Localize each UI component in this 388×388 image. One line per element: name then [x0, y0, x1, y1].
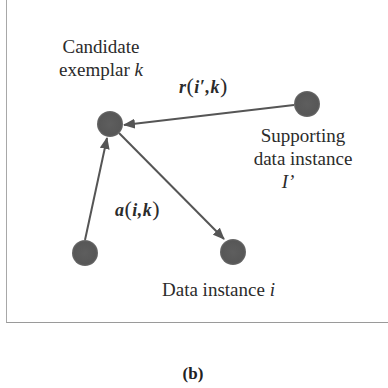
candidate-label-line2: exemplar k: [40, 58, 162, 81]
data-instance-node: [220, 239, 246, 265]
candidate-exemplar-label: Candidate exemplar k: [40, 35, 162, 81]
data-instance-label: Data instance i: [162, 278, 275, 301]
responsibility-label: r(i′,k): [179, 73, 228, 99]
responsibility-edge: [124, 105, 294, 125]
figure-caption: (b): [0, 364, 386, 384]
candidate-label-line1: Candidate: [40, 35, 162, 58]
supporting-variable: I’: [228, 170, 378, 193]
candidate-exemplar-node: [97, 111, 123, 137]
supporting-label-line1: Supporting: [228, 124, 378, 147]
source-instance-node: [72, 240, 98, 266]
availability-label: a(i,k): [115, 196, 160, 222]
exemplar-variable: k: [135, 59, 143, 80]
availability-edge: [85, 138, 107, 240]
supporting-label-line2: data instance: [228, 147, 378, 170]
instance-variable: i: [270, 279, 275, 300]
supporting-instance-label: Supporting data instance I’: [228, 124, 378, 193]
exemplar-to-instance-edge: [119, 133, 224, 239]
supporting-instance-node: [294, 91, 320, 117]
